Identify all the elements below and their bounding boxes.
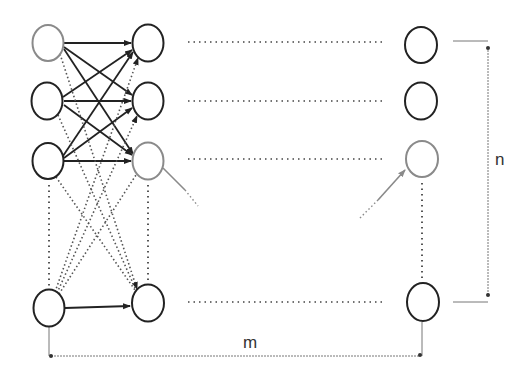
node-c2-r2: [133, 83, 164, 120]
node-c1-r2: [32, 83, 63, 120]
node-column-1: [32, 25, 65, 327]
rows-dimension-label: n: [495, 150, 504, 170]
node-column-2: [132, 25, 164, 322]
node-c1-rn: [34, 290, 65, 327]
pointer-arrows: [163, 168, 405, 218]
node-c1-r3: [33, 143, 64, 179]
node-cm-r2: [405, 83, 437, 120]
pointer-to-colm: [378, 170, 405, 200]
node-c2-rn: [132, 285, 164, 322]
n-dimension-bracket: [453, 41, 490, 302]
node-cm-rn: [407, 283, 439, 321]
node-cm-r3: [406, 141, 438, 177]
neural-network-diagram: [0, 0, 527, 373]
pointer-from-col2: [163, 168, 185, 190]
solid-connections: [63, 43, 133, 308]
row-ellipsis-horizontal: [188, 42, 385, 302]
m-dimension-bracket: [49, 322, 422, 358]
columns-dimension-label: m: [243, 333, 257, 353]
column-ellipsis-vertical: [49, 183, 422, 288]
node-c2-r1: [133, 25, 164, 62]
node-c1-r1: [33, 25, 64, 61]
node-c2-r3: [133, 143, 164, 180]
node-cm-r1: [405, 27, 437, 63]
